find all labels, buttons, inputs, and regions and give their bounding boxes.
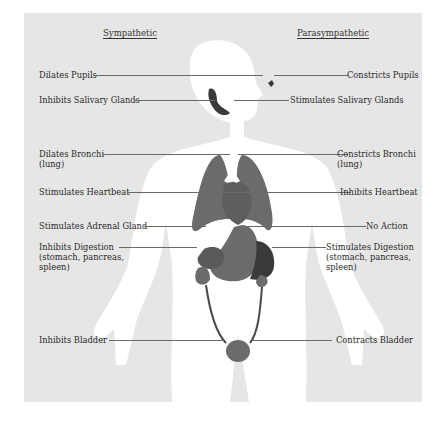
sympathetic-label-pupils: Dilates Pupils — [39, 70, 97, 80]
leader-line — [135, 100, 215, 101]
sympathetic-label-salivary: Inhibits Salivary Glands — [39, 95, 140, 105]
leader-line — [127, 192, 239, 193]
parasympathetic-heading: Parasympathetic — [297, 28, 369, 38]
leader-line — [234, 100, 289, 101]
leader-line — [109, 340, 224, 341]
sympathetic-label-heartbeat: Stimulates Heartbeat — [39, 187, 130, 197]
parasympathetic-label-pupils: Constricts Pupils — [347, 70, 419, 80]
parasympathetic-label-heartbeat: Inhibits Heartbeat — [340, 187, 418, 197]
sympathetic-label-bronchi: Dilates Bronchi (lung) — [39, 149, 104, 169]
parasympathetic-label-salivary: Stimulates Salivary Glands — [290, 95, 404, 105]
leader-line — [252, 340, 332, 341]
leader-line — [95, 75, 263, 76]
sympathetic-label-digestion: Inhibits Digestion (stomach, pancreas, s… — [39, 242, 124, 272]
parasympathetic-label-digestion: Stimulates Digestion (stomach, pancreas,… — [326, 242, 414, 272]
leader-line — [102, 154, 230, 155]
eye-icon — [268, 80, 274, 87]
sympathetic-label-bladder: Inhibits Bladder — [39, 335, 107, 345]
parasympathetic-label-bronchi: Constricts Bronchi (lung) — [337, 149, 416, 169]
bladder-icon — [226, 340, 250, 362]
leader-line — [244, 226, 366, 227]
leader-line — [272, 247, 326, 248]
parasympathetic-label-adrenal: No Action — [366, 221, 408, 231]
leader-line — [239, 192, 351, 193]
leader-line — [144, 226, 206, 227]
sympathetic-heading: Sympathetic — [103, 28, 157, 38]
leader-line — [119, 247, 197, 248]
leader-line — [274, 75, 348, 76]
diagram-panel: Sympathetic Parasympathetic Dilates Pupi… — [24, 13, 422, 402]
leader-line — [238, 154, 348, 155]
sympathetic-label-adrenal: Stimulates Adrenal Gland — [39, 221, 147, 231]
parasympathetic-label-bladder: Contracts Bladder — [336, 335, 413, 345]
